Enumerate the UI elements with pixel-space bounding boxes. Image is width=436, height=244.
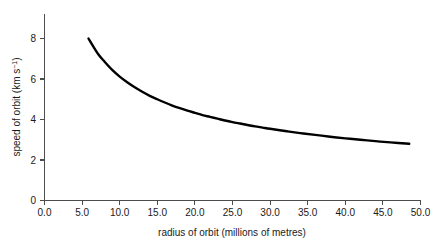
chart-svg: 8 6 4 2 0 0.0 5.0 10.0 15.0 20.0 [0,0,436,244]
ytick-label-4: 4 [30,114,36,125]
chart-background [0,0,436,244]
y-axis-title: speed of orbit (km s−1) [11,57,22,156]
ytick-label-2: 2 [30,155,36,166]
x-axis-title: radius of orbit (millions of metres) [158,227,306,238]
ytick-label-0: 0 [30,195,36,206]
xtick-label-5: 5.0 [75,207,89,218]
xtick-label-25: 25.0 [223,207,243,218]
xtick-label-30: 30.0 [260,207,280,218]
xtick-label-10: 10.0 [110,207,130,218]
ytick-label-6: 6 [30,74,36,85]
xtick-label-50: 50.0 [411,207,431,218]
xtick-label-0: 0.0 [38,207,52,218]
xtick-label-15: 15.0 [148,207,168,218]
xtick-label-45: 45.0 [373,207,393,218]
y-axis-title-tail: ) [11,57,22,60]
y-axis-title-exponent: −1 [11,61,18,69]
xtick-label-20: 20.0 [185,207,205,218]
xtick-label-35: 35.0 [298,207,318,218]
y-axis-title-main: speed of orbit (km s [11,69,22,157]
xtick-label-40: 40.0 [336,207,356,218]
orbital-speed-chart: 8 6 4 2 0 0.0 5.0 10.0 15.0 20.0 [0,0,436,244]
ytick-label-8: 8 [30,33,36,44]
